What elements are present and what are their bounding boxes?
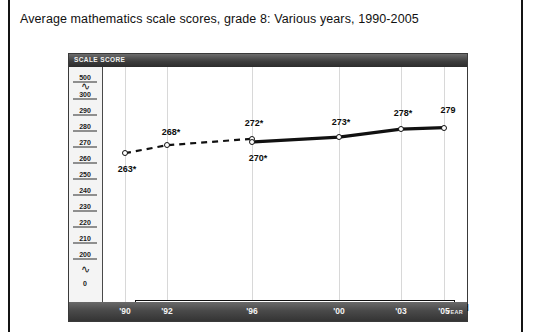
data-point-label: 279 bbox=[440, 105, 455, 115]
x-axis-tick: '90 bbox=[119, 306, 130, 316]
y-axis-tick: 210 bbox=[73, 235, 97, 242]
y-axis-break-top-icon: ∿ bbox=[75, 83, 95, 89]
gridline bbox=[125, 67, 126, 302]
y-axis-tick: 0 bbox=[73, 280, 97, 287]
y-axis-panel: 5003002902802702602502402302202102000∿∿ bbox=[69, 67, 103, 302]
y-axis-break-bottom-icon: ∿ bbox=[75, 266, 95, 272]
x-axis-tick: '00 bbox=[333, 306, 344, 316]
y-axis-tick: 230 bbox=[73, 203, 97, 210]
data-point-marker bbox=[441, 125, 447, 131]
gridline bbox=[252, 67, 253, 302]
y-axis-tick: 260 bbox=[73, 155, 97, 162]
data-point-label: 263* bbox=[118, 164, 137, 174]
x-axis-tick: '96 bbox=[246, 306, 257, 316]
data-point-label: 270* bbox=[249, 153, 268, 163]
page-frame-line-left bbox=[8, 0, 10, 332]
y-axis-tick: 240 bbox=[73, 187, 97, 194]
page-title: Average mathematics scale scores, grade … bbox=[20, 12, 500, 27]
plot-area: 263*268*272*270*273*278*279 bbox=[103, 67, 467, 302]
y-axis-tick: 250 bbox=[73, 171, 97, 178]
x-axis-tick: '92 bbox=[161, 306, 172, 316]
series-line-1 bbox=[125, 139, 252, 153]
gridline bbox=[339, 67, 340, 302]
data-point-label: 273* bbox=[332, 117, 351, 127]
chart-header-bar: SCALE SCORE bbox=[69, 54, 467, 67]
gridline bbox=[401, 67, 402, 302]
y-axis-tick: 220 bbox=[73, 219, 97, 226]
x-axis-tick: '03 bbox=[395, 306, 406, 316]
series-lines bbox=[103, 67, 467, 302]
x-axis-bar: YEAR '90'92'96'00'03'05 bbox=[69, 302, 467, 321]
page-frame-line-right bbox=[521, 0, 523, 332]
y-axis-title: SCALE SCORE bbox=[74, 56, 125, 63]
y-axis-tick: 290 bbox=[73, 107, 97, 114]
y-axis-tick: 270 bbox=[73, 139, 97, 146]
series-line-2 bbox=[252, 128, 444, 142]
data-point-marker bbox=[249, 139, 255, 145]
gridline bbox=[167, 67, 168, 302]
y-axis-tick: 280 bbox=[73, 123, 97, 130]
data-point-label: 278* bbox=[394, 108, 413, 118]
gridline bbox=[444, 67, 445, 302]
data-point-label: 272* bbox=[245, 118, 264, 128]
y-axis-tick: 200 bbox=[73, 251, 97, 258]
chart-container: SCALE SCORE 5003002902802702602502402302… bbox=[68, 53, 468, 322]
x-axis-tick: '05 bbox=[438, 306, 449, 316]
data-point-label: 268* bbox=[162, 127, 181, 137]
